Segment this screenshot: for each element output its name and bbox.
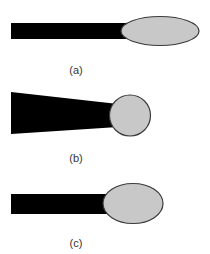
panel-a: (a)	[11, 17, 199, 77]
label-a: (a)	[69, 64, 82, 76]
stem-a	[11, 23, 126, 39]
panel-b: (b)	[11, 92, 151, 164]
panel-c: (c)	[11, 184, 163, 250]
head-c	[103, 184, 163, 224]
head-a	[121, 17, 199, 46]
label-c: (c)	[70, 237, 83, 249]
diagram-canvas: (a) (b) (c)	[0, 0, 210, 254]
stem-b	[11, 92, 118, 134]
label-b: (b)	[69, 152, 82, 164]
stem-c	[11, 194, 109, 214]
head-b	[110, 95, 151, 136]
